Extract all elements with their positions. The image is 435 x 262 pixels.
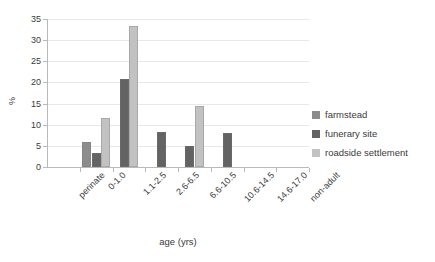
legend-item[interactable]: funerary site	[312, 124, 408, 143]
y-axis-tick-mark	[43, 167, 47, 168]
legend-label: roadside settlement	[325, 147, 408, 158]
legend-swatch-icon	[312, 111, 320, 119]
bar-group	[244, 19, 277, 167]
y-axis-line	[47, 19, 48, 168]
y-axis-tick-mark	[43, 19, 47, 20]
y-axis-tick-label: 35	[31, 14, 41, 24]
bar	[120, 79, 129, 167]
bar	[92, 153, 101, 167]
bar	[129, 26, 138, 167]
y-axis-tick-mark	[43, 61, 47, 62]
x-axis-tick-label: 1.1-2.5	[141, 170, 168, 197]
y-axis-tick-mark	[43, 146, 47, 147]
bar-group	[178, 19, 211, 167]
bar-group	[145, 19, 178, 167]
legend-label: funerary site	[325, 128, 377, 139]
y-axis-tick-label: 20	[31, 77, 41, 87]
x-axis-tick-label: 14.6-17.0	[275, 170, 309, 204]
y-axis-tick-label: 15	[31, 99, 41, 109]
y-axis-tick-label: 25	[31, 56, 41, 66]
bar	[195, 106, 204, 167]
bar	[185, 146, 194, 167]
plot-frame: 05101520253035	[47, 19, 309, 168]
x-axis-tick-label: 6.6-10.5	[208, 170, 238, 200]
x-axis-tick-label: 0-1.0	[106, 170, 128, 192]
x-axis-tick-label: 10.6-14.5	[242, 170, 276, 204]
x-axis-tick-mark	[309, 168, 310, 172]
bar-group	[113, 19, 146, 167]
chart-legend: farmsteadfunerary siteroadside settlemen…	[312, 105, 408, 162]
bar	[82, 142, 91, 167]
y-axis-tick-mark	[43, 125, 47, 126]
bar	[101, 118, 110, 167]
y-axis-tick-label: 30	[31, 35, 41, 45]
legend-swatch-icon	[312, 149, 320, 157]
bar-group	[211, 19, 244, 167]
bar-chart-figure: % 05101520253035 perinate0-1.01.1-2.52.6…	[0, 0, 435, 262]
x-axis-tick-label: perinate	[77, 170, 107, 200]
x-axis-tick-labels: perinate0-1.01.1-2.52.6-6.56.6-10.510.6-…	[47, 170, 309, 228]
y-axis-tick-mark	[43, 82, 47, 83]
y-axis-tick-mark	[43, 40, 47, 41]
y-axis-tick-mark	[43, 104, 47, 105]
bar	[157, 132, 166, 167]
y-axis-tick-label: 5	[36, 141, 41, 151]
legend-swatch-icon	[312, 130, 320, 138]
bar-group	[80, 19, 113, 167]
x-axis-tick-label: non-adult	[308, 170, 342, 204]
y-axis-title: %	[7, 91, 17, 111]
y-axis-tick-label: 10	[31, 120, 41, 130]
bar-group	[276, 19, 309, 167]
y-axis-tick-label: 0	[36, 162, 41, 172]
x-axis-title: age (yrs)	[47, 236, 309, 247]
bar	[223, 133, 232, 167]
x-axis-tick-label: 2.6-6.5	[174, 170, 201, 197]
bar-group	[47, 19, 80, 167]
legend-item[interactable]: farmstead	[312, 105, 408, 124]
legend-item[interactable]: roadside settlement	[312, 143, 408, 162]
plot-area: 05101520253035	[47, 19, 309, 168]
legend-label: farmstead	[325, 109, 367, 120]
